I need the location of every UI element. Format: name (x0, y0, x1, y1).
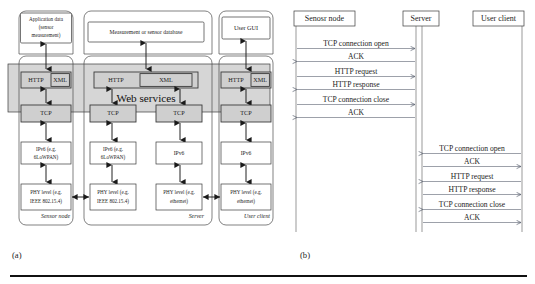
sensor-xml-label: XML (53, 76, 67, 83)
msg-label-2-3: HTTP request (451, 172, 494, 181)
sensor-app-data-line-2: (sensor (39, 24, 54, 31)
msg-label-2-1: TCP connection open (439, 144, 505, 153)
column-server: Measurement or sensor database HTTP XML … (84, 11, 212, 225)
msg-label-1-1: TCP connection open (323, 39, 389, 48)
server-phy-left-line-2: IEEE 802.15.4) (97, 198, 129, 205)
sensor-phy-line-1: PHY level (e.g. (30, 189, 62, 196)
sensor-app-data-line-1: Application data (29, 16, 64, 22)
user-xml-label: XML (253, 76, 267, 83)
server-xml-label: XML (159, 76, 173, 83)
user-http-label: HTTP (228, 76, 244, 83)
msg-label-2-4: HTTP response (448, 185, 496, 194)
column-sensor-node: Application data (sensor measurement) HT… (19, 11, 73, 225)
server-ipv6-left-line-1: IPv6 (e.g. (103, 146, 123, 153)
msg-label-2-2: ACK (464, 157, 481, 166)
server-tcp-label-right: TCP (173, 109, 185, 116)
caption-b: (b) (300, 250, 310, 260)
msg-label-1-6: ACK (348, 108, 365, 117)
sensor-app-data-line-3: measurement) (32, 32, 61, 39)
panel-b: Senosr node Server User client TCP conne… (294, 11, 524, 232)
sensor-node-footer-label: Sensor node (41, 213, 70, 219)
server-database-label: Measurement or sensor database (110, 29, 183, 35)
column-user-client: User GUI HTTP XML TCP IPv6 PHY level (e.… (219, 11, 273, 225)
msg-label-1-4: HTTP response (332, 80, 380, 89)
caption-a: (a) (12, 250, 22, 260)
server-ipv6-left-line-2: 6LoWPAN) (101, 154, 126, 161)
lifeline-label-user-client: User client (481, 14, 517, 23)
server-ipv6-right-line-1: IPv6 (174, 150, 185, 156)
user-tcp-label: TCP (240, 109, 252, 116)
panel-a: Application data (sensor measurement) HT… (8, 11, 273, 225)
user-gui-label: User GUI (234, 24, 258, 31)
lifeline-label-server: Server (411, 14, 432, 23)
sensor-ipv6-line-2: 6LoWPAN) (34, 154, 59, 161)
server-phy-right-line-1: PHY level (e.g. (163, 189, 195, 196)
sensor-tcp-label: TCP (40, 109, 52, 116)
user-client-footer-label: User client (244, 213, 270, 219)
server-tcp-label-left: TCP (107, 109, 119, 116)
user-ipv6-line-1: IPv6 (241, 150, 252, 156)
server-http-label: HTTP (108, 76, 124, 83)
server-phy-right-line-2: ethernet) (170, 198, 188, 205)
msg-label-1-5: TCP connection close (323, 95, 390, 104)
exchange-sensor-to-server: TCP connection open ACK HTTP request HTT… (297, 39, 415, 118)
exchange-client-to-server: TCP connection open ACK HTTP request HTT… (423, 144, 521, 223)
web-services-label: Web services (116, 92, 175, 104)
user-phy-line-2: ethernet) (237, 198, 255, 205)
msg-label-2-6: ACK (464, 213, 481, 222)
sensor-phy-line-2: IEEE 802.15.4) (30, 198, 62, 205)
msg-label-1-3: HTTP request (335, 67, 378, 76)
sensor-ipv6-line-1: IPv6 (e.g. (36, 146, 56, 153)
user-phy-line-1: PHY level (e.g. (230, 189, 262, 196)
msg-label-1-2: ACK (348, 52, 365, 61)
server-phy-left-line-1: PHY level (e.g. (97, 189, 129, 196)
lifeline-label-sensor-node: Senosr node (305, 14, 345, 23)
server-footer-label: Server (189, 213, 205, 219)
figure-root: Application data (sensor measurement) HT… (0, 0, 535, 284)
msg-label-2-5: TCP connection close (439, 200, 506, 209)
sensor-http-label: HTTP (28, 76, 44, 83)
